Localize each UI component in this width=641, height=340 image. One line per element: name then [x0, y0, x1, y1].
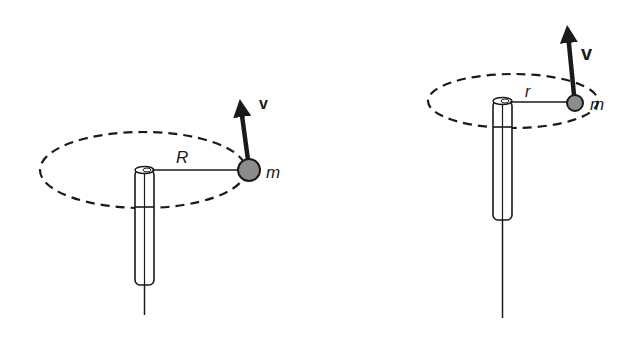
velocity-arrow-left — [241, 108, 248, 160]
mass-ball-left — [238, 159, 260, 181]
tube-right — [493, 98, 512, 221]
velocity-label-right: v — [581, 42, 593, 64]
mass-label-left: m — [266, 163, 280, 182]
tube-left — [135, 167, 154, 286]
radius-label-r: r — [525, 83, 531, 100]
right-figure: r v m — [428, 34, 604, 318]
diagram-canvas: R v m r v m — [0, 0, 641, 340]
velocity-arrow-right — [568, 34, 574, 95]
radius-label-R: R — [176, 148, 188, 167]
left-figure: R v m — [40, 95, 280, 315]
mass-ball-right — [567, 95, 583, 111]
velocity-label-left: v — [259, 95, 268, 112]
mass-label-right: m — [590, 95, 604, 114]
